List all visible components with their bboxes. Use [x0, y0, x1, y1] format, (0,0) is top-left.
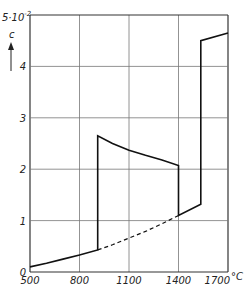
y-axis-label: c — [9, 29, 15, 40]
y-tick-label: 3 — [20, 113, 26, 124]
x-tick-label: 800 — [70, 275, 89, 286]
y-tick-label: 1 — [20, 216, 26, 227]
grid — [30, 15, 228, 272]
x-tick-label: 1100 — [116, 275, 141, 286]
x-tick-label: 1400 — [166, 275, 191, 286]
tick-labels: 50080011001400170001234 — [20, 61, 230, 286]
up-arrow-icon — [8, 42, 14, 71]
y-scale-label: 5·10-2 — [2, 10, 32, 23]
y-tick-label: 0 — [20, 267, 26, 278]
y-tick-label: 2 — [20, 164, 26, 175]
chart: 50080011001400170001234 5·10-2 c °C — [0, 0, 250, 286]
x-tick-label: 1700 — [205, 275, 230, 286]
x-axis-unit: °C — [231, 271, 243, 282]
y-tick-label: 4 — [20, 61, 26, 72]
